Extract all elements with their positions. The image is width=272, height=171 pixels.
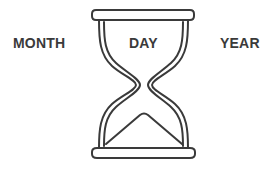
day-label: DAY: [129, 35, 158, 51]
hourglass-icon: [0, 0, 272, 171]
year-label: YEAR: [220, 35, 260, 51]
hourglass-diagram: MONTH DAY YEAR: [0, 0, 272, 171]
month-label: MONTH: [13, 35, 65, 51]
